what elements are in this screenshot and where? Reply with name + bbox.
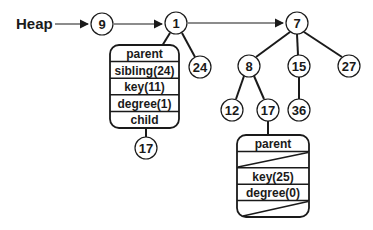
node-8-label: 8: [245, 59, 252, 74]
node-9-label: 9: [98, 17, 105, 32]
node-7-label: 7: [293, 16, 300, 31]
node-record-2: parent key(25) degree(0): [237, 135, 309, 217]
record-2-parent: parent: [255, 137, 292, 151]
node-1-label: 1: [172, 16, 179, 31]
record-1-parent: parent: [126, 47, 163, 61]
record-1-sibling: sibling(24): [114, 64, 174, 78]
record-2-degree: degree(0): [246, 186, 300, 200]
heap-label: Heap: [16, 15, 53, 32]
record-2-key: key(25): [252, 170, 293, 184]
node-12-label: 12: [225, 103, 239, 118]
node-27-label: 27: [342, 59, 356, 74]
binomial-heap-diagram: Heap 9 1 24 17 7 8 15 27: [0, 0, 373, 230]
record-1-key: key(11): [124, 80, 165, 94]
node-15-label: 15: [292, 59, 306, 74]
node-24-label: 24: [193, 60, 208, 75]
node-record-1: parent sibling(24) key(11) degree(1) chi…: [110, 45, 179, 128]
node-36-label: 36: [292, 103, 306, 118]
record-1-degree: degree(1): [117, 97, 171, 111]
record-1-child: child: [130, 113, 158, 127]
node-17-label: 17: [261, 103, 275, 118]
node-17-child-label: 17: [139, 141, 153, 156]
